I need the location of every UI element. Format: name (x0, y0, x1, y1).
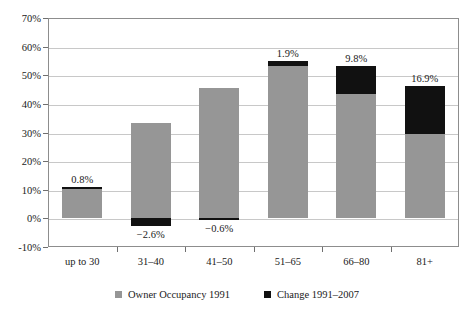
x-axis-tick-label: 66–80 (322, 256, 391, 268)
y-axis-tick-label: 50% (3, 70, 41, 81)
bar-data-label: −2.6% (117, 229, 186, 240)
y-axis-tick-label: 0% (3, 213, 41, 224)
legend-item: Owner Occupancy 1991 (115, 289, 230, 300)
x-axis-tick-mark (391, 247, 392, 252)
x-axis-tick-label: up to 30 (48, 256, 117, 268)
y-axis-tick-label: 60% (3, 42, 41, 53)
x-axis-tick-mark (185, 247, 186, 252)
gridline (49, 162, 458, 163)
y-axis-tick-label: -10% (3, 242, 41, 253)
x-axis-tick-label: 41–50 (185, 256, 254, 268)
gridline (49, 191, 458, 192)
y-axis-tick-mark (43, 133, 48, 134)
bar-data-label: −0.6% (185, 223, 254, 234)
y-axis-tick-mark (43, 18, 48, 19)
bar-segment-owner-occupancy (336, 94, 376, 219)
y-axis-tick-mark (43, 218, 48, 219)
bar-chart: 70%60%50%40%30%20%10%0%-10% up to 3031–4… (0, 0, 474, 316)
bar-segment-owner-occupancy (405, 134, 445, 218)
legend-swatch-change (264, 291, 271, 298)
bar-segment-change (336, 66, 376, 94)
bar-segment-change (131, 218, 171, 225)
bar-segment-owner-occupancy (131, 123, 171, 219)
bar-data-label: 9.8% (322, 53, 391, 64)
legend-label: Change 1991–2007 (277, 289, 359, 300)
y-axis-tick-label: 70% (3, 13, 41, 24)
legend-label: Owner Occupancy 1991 (128, 289, 230, 300)
y-axis-tick-mark (43, 190, 48, 191)
y-axis-tick-label: 40% (3, 99, 41, 110)
bar-segment-change (268, 61, 308, 66)
x-axis-tick-label: 51–65 (254, 256, 323, 268)
bar-segment-change (199, 218, 239, 220)
y-axis-tick-mark (43, 247, 48, 248)
y-axis-tick-label: 10% (3, 185, 41, 196)
y-axis-tick-mark (43, 47, 48, 48)
chart-legend: Owner Occupancy 1991Change 1991–2007 (0, 289, 474, 300)
x-axis-tick-mark (322, 247, 323, 252)
bar-data-label: 0.8% (48, 174, 117, 185)
bar-data-label: 16.9% (391, 73, 460, 84)
y-axis-tick-mark (43, 104, 48, 105)
x-axis-tick-label: 31–40 (117, 256, 186, 268)
y-axis-tick-mark (43, 75, 48, 76)
bar-data-label: 1.9% (254, 48, 323, 59)
bar-segment-owner-occupancy (199, 88, 239, 218)
legend-swatch-owner-occupancy (115, 291, 122, 298)
y-axis-tick-label: 20% (3, 156, 41, 167)
bar-segment-change (62, 187, 102, 189)
bar-segment-change (405, 86, 445, 134)
gridline (49, 219, 458, 220)
x-axis-tick-mark (254, 247, 255, 252)
bar-segment-owner-occupancy (62, 189, 102, 218)
gridline (49, 134, 458, 135)
gridline (49, 105, 458, 106)
bar-segment-owner-occupancy (268, 66, 308, 218)
x-axis-tick-label: 81+ (391, 256, 460, 268)
y-axis-tick-mark (43, 161, 48, 162)
legend-item: Change 1991–2007 (264, 289, 359, 300)
x-axis-tick-mark (117, 247, 118, 252)
y-axis-tick-label: 30% (3, 128, 41, 139)
